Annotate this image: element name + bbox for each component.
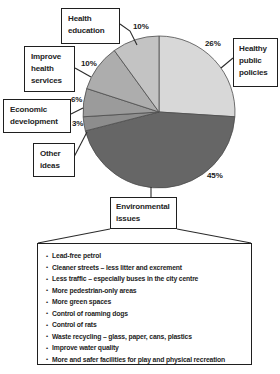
callout-other-ideas: Other ideas xyxy=(33,143,75,177)
pct-label-other-ideas: 3% xyxy=(72,119,83,128)
callout-label: Environmental issues xyxy=(116,201,171,225)
pct-label-economic-development: 6% xyxy=(71,95,82,104)
pct-label-health-education: 10% xyxy=(133,22,149,31)
list-item: •Cleaner streets – less litter and excre… xyxy=(46,262,247,274)
leader-line-improve-health-services xyxy=(75,68,91,77)
pct-label-healthy-public-policies: 26% xyxy=(205,39,221,48)
pie-slice-healthy-public-policies xyxy=(159,36,235,117)
figure-pie-chart-city-health-priorities: Health education Healthy public policies… xyxy=(0,0,280,374)
leader-line-healthy-public-policies xyxy=(221,58,233,68)
pct-label-improve-health-services: 10% xyxy=(81,59,97,68)
callout-economic-development: Economic development xyxy=(3,99,71,133)
callout-label: Health education xyxy=(68,13,113,37)
list-item: •Improve water quality xyxy=(46,342,247,354)
environmental-details-list: •Lead-free petrol•Cleaner streets – less… xyxy=(38,244,251,365)
callout-improve-health-services: Improve health services xyxy=(24,46,75,92)
pct-label-environmental-issues: 45% xyxy=(207,171,223,180)
callout-healthy-public-policies: Healthy public policies xyxy=(233,38,278,87)
leader-line-other-ideas xyxy=(74,132,87,157)
list-item: •Control of roaming dogs xyxy=(46,308,247,320)
funnel-line-left xyxy=(38,229,110,243)
list-item: •More green spaces xyxy=(46,296,247,308)
environmental-details-box: •Lead-free petrol•Cleaner streets – less… xyxy=(37,243,252,365)
leader-line-economic-development xyxy=(71,108,83,114)
list-item: •Control of rats xyxy=(46,319,247,331)
callout-label: Healthy public policies xyxy=(239,43,272,79)
pie-chart xyxy=(83,36,235,188)
list-item: •More pedestrian-only areas xyxy=(46,285,247,297)
callout-environmental-issues: Environmental issues xyxy=(110,197,177,229)
callout-label: Economic development xyxy=(10,104,64,128)
callout-label: Other ideas xyxy=(40,148,68,172)
funnel-line-right xyxy=(177,229,251,243)
callout-label: Improve health services xyxy=(31,51,68,87)
list-item: •Waste recycling – glass, paper, cans, p… xyxy=(46,331,247,343)
list-item: •Less traffic – especially buses in the … xyxy=(46,273,247,285)
list-item: •Lead-free petrol xyxy=(46,250,247,262)
callout-health-education: Health education xyxy=(61,8,120,44)
list-item: •More and safer facilities for play and … xyxy=(46,354,247,366)
